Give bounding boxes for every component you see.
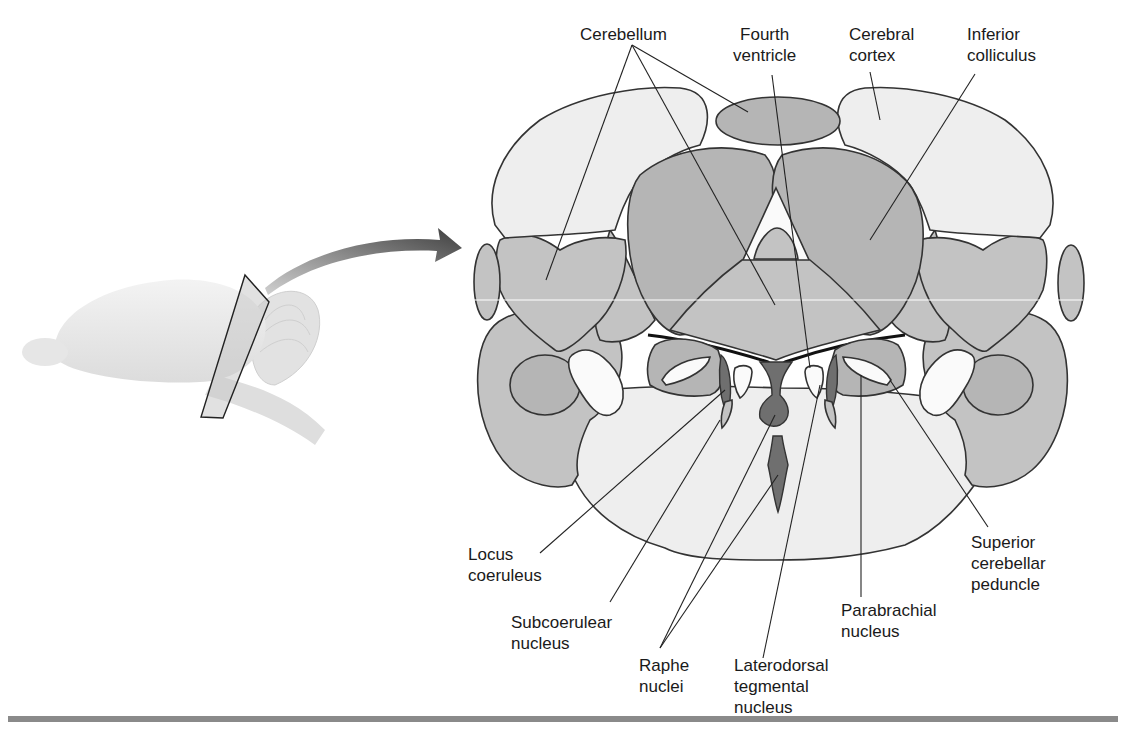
label-fourth-ventricle: Fourth ventricle — [733, 24, 796, 66]
label-laterodorsal-tegmental-nucleus: Laterodorsal tegmental nucleus — [734, 655, 829, 718]
label-parabrachial-nucleus: Parabrachial nucleus — [841, 600, 936, 642]
label-cerebellum: Cerebellum — [580, 24, 667, 45]
label-subcoerulear-nucleus: Subcoerulear nucleus — [511, 612, 612, 654]
bottom-rule — [8, 716, 1118, 722]
inset-brain — [22, 275, 325, 445]
label-superior-cerebellar-peduncle: Superior cerebellar peduncle — [971, 532, 1046, 595]
label-raphe-nuclei: Raphe nuclei — [639, 655, 689, 697]
label-inferior-colliculus: Inferior colliculus — [967, 24, 1036, 66]
curved-arrow-icon — [265, 228, 462, 295]
label-locus-coeruleus: Locus coeruleus — [468, 544, 542, 586]
label-cerebral-cortex: Cerebral cortex — [849, 24, 914, 66]
